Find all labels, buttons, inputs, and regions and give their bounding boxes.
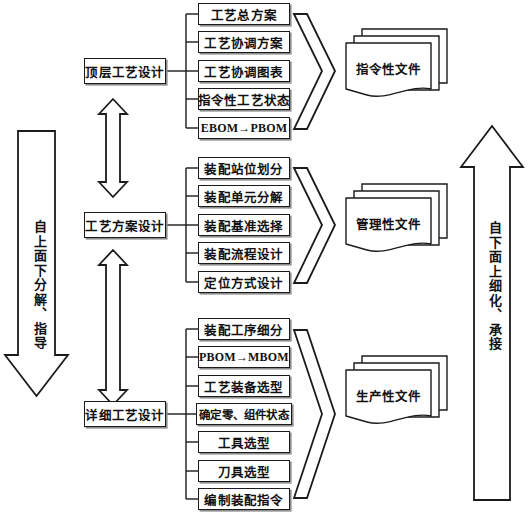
leaf-node-g1-1[interactable]: 工艺协调方案 bbox=[198, 31, 290, 53]
stage-node-scheme-level[interactable]: 工艺方案设计 bbox=[84, 212, 166, 238]
chevron-right-icon-group-2 bbox=[294, 168, 335, 283]
leaf-node-g1-4[interactable]: EBOM→PBOM bbox=[198, 117, 290, 139]
document-label-group-1: 指令性文件 bbox=[352, 59, 424, 78]
left-arrow-label: 自上面下分解、指导 bbox=[25, 195, 49, 375]
document-label-group-2: 管理性文件 bbox=[352, 214, 424, 233]
leaf-node-g3-1[interactable]: PBOM→MBOM bbox=[198, 346, 290, 368]
leaf-node-g2-3[interactable]: 装配流程设计 bbox=[198, 242, 290, 264]
document-label-group-3: 生产性文件 bbox=[352, 386, 424, 405]
leaf-node-g3-3[interactable]: 确定零、组件状态 bbox=[196, 403, 292, 425]
connector-bracket-group-3 bbox=[166, 329, 198, 499]
chevron-right-icon-group-3 bbox=[294, 330, 335, 498]
chevron-right-icon-group-1 bbox=[294, 14, 335, 129]
leaf-node-g3-6[interactable]: 编制装配指令 bbox=[198, 488, 290, 510]
right-arrow-label: 自下面上细化、承接 bbox=[480, 196, 504, 376]
connector-bracket-group-1 bbox=[166, 14, 198, 128]
double-arrow-stage2-stage3 bbox=[99, 250, 127, 405]
leaf-node-g2-4[interactable]: 定位方式设计 bbox=[198, 271, 290, 293]
stage-node-detail-level[interactable]: 详细工艺设计 bbox=[84, 401, 166, 427]
leaf-node-g3-4[interactable]: 工具选型 bbox=[198, 431, 290, 453]
leaf-node-g2-1[interactable]: 装配单元分解 bbox=[198, 185, 290, 207]
connector-bracket-group-2 bbox=[166, 168, 198, 282]
stage-node-top-level[interactable]: 顶层工艺设计 bbox=[84, 58, 166, 84]
diagram-canvas: 自上面下分解、指导 自下面上细化、承接 顶层工艺设计 工艺方案设计 详细工艺设计… bbox=[0, 0, 531, 519]
leaf-node-g2-2[interactable]: 装配基准选择 bbox=[198, 214, 290, 236]
leaf-node-g2-0[interactable]: 装配站位划分 bbox=[198, 157, 290, 179]
leaf-node-g3-0[interactable]: 装配工序细分 bbox=[198, 318, 290, 340]
leaf-node-g1-0[interactable]: 工艺总方案 bbox=[198, 3, 290, 25]
double-arrow-stage1-stage2 bbox=[99, 99, 127, 197]
leaf-node-g3-5[interactable]: 刀具选型 bbox=[198, 460, 290, 482]
leaf-node-g1-2[interactable]: 工艺协调图表 bbox=[198, 60, 290, 82]
leaf-node-g3-2[interactable]: 工艺装备选型 bbox=[198, 375, 290, 397]
leaf-node-g1-3[interactable]: 指令性工艺状态 bbox=[198, 88, 290, 110]
